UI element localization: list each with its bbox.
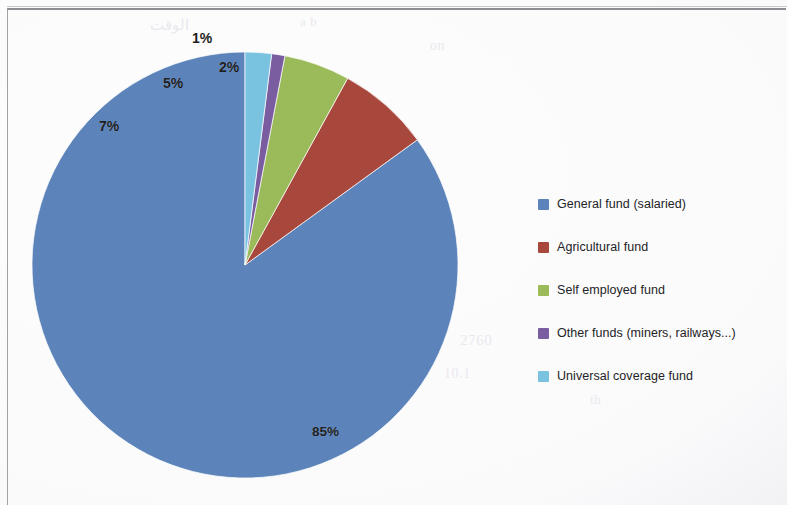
legend-swatch-icon [538,242,549,253]
slice-data-label-self-employed-fund: 5% [163,76,183,90]
slice-data-label-universal-coverage-fund: 2% [219,60,239,74]
legend-item-label: Agricultural fund [557,240,648,255]
legend-item-self-employed-fund: Self employed fund [538,283,784,326]
legend-item-general-fund: General fund (salaried) [538,197,784,240]
slice-data-label-general-fund: 85% [312,425,339,439]
legend-swatch-icon [538,199,549,210]
pie-slice-group [32,52,458,478]
legend-swatch-icon [538,285,549,296]
legend-item-label: General fund (salaried) [557,197,686,212]
slice-data-label-other-funds: 1% [192,31,212,45]
slice-data-label-agricultural-fund: 7% [99,119,119,133]
legend-item-universal-coverage-fund: Universal coverage fund [538,369,784,412]
legend-swatch-icon [538,371,549,382]
legend-swatch-icon [538,328,549,339]
chart-legend: General fund (salaried) Agricultural fun… [538,197,784,412]
legend-item-label: Universal coverage fund [557,369,693,384]
legend-item-label: Other funds (miners, railways...) [557,326,736,341]
scanned-figure-page: الوقت a b on 2760 10.1 th 85% 7% 5% 1% 2… [0,0,787,505]
legend-item-label: Self employed fund [557,283,665,298]
legend-item-agricultural-fund: Agricultural fund [538,240,784,283]
legend-item-other-funds: Other funds (miners, railways...) [538,326,784,369]
